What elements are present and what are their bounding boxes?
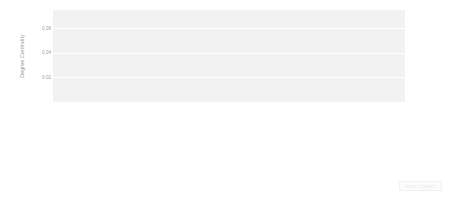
y-axis-tick-label: 0.04 [36,50,51,55]
y-axis-title: Degree Centrality [17,14,27,98]
x-axis-tick-labels [53,103,405,165]
y-axis-tick-label: 0.02 [36,75,51,80]
bar-series [53,10,405,102]
plot-area [53,10,405,102]
chart-figure: Degree Centrality 0.020.040.06 EDIT CHAR… [0,0,458,204]
edit-chart-button[interactable]: EDIT CHART [399,181,442,191]
y-axis-tick-labels: 0.020.040.06 [36,10,51,102]
y-axis-tick-label: 0.06 [36,26,51,31]
